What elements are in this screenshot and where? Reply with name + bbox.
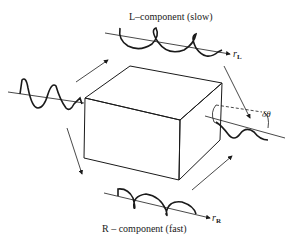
medium-box (84, 66, 222, 180)
rotation-angle-label: δθ (262, 109, 271, 119)
r-component-helix (104, 189, 210, 218)
axis-label-r: rR (212, 212, 222, 225)
l-component-label: L–component (slow) (129, 11, 213, 23)
arrow-to-r-component (67, 128, 82, 174)
l-component-helix (105, 28, 230, 56)
input-wave (8, 79, 84, 109)
output-wave (205, 105, 285, 140)
axis-label-l: rL (233, 48, 242, 61)
arrow-l-to-output (224, 66, 250, 118)
arrow-to-l-component (76, 60, 108, 82)
diagram-canvas: rL L–component (slow) δθ rR R – componen… (0, 0, 295, 242)
r-component-label: R – component (fast) (102, 223, 187, 235)
